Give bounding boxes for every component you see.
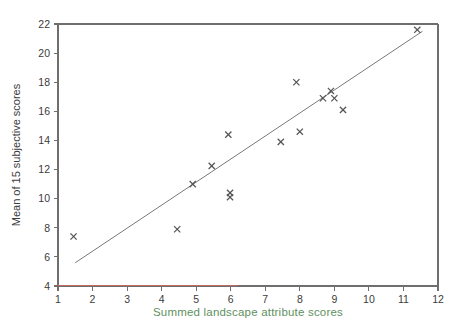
axis-ticks bbox=[54, 24, 438, 291]
y-axis-tick-label: 4 bbox=[44, 280, 50, 292]
axis-titles: Mean of 15 subjective scores Summed land… bbox=[10, 83, 343, 318]
data-point-marker bbox=[174, 226, 180, 232]
x-axis-tick-label: 4 bbox=[159, 293, 165, 305]
y-axis-tick-label: 12 bbox=[38, 163, 50, 175]
trend-line bbox=[75, 31, 422, 262]
data-point-marker bbox=[297, 129, 303, 135]
x-axis-tick-label: 2 bbox=[90, 293, 96, 305]
y-axis-tick-label: 20 bbox=[38, 47, 50, 59]
scatter-plot-figure: 46810121416182022123456789101112 Mean of… bbox=[0, 0, 464, 332]
regression-line bbox=[75, 31, 422, 262]
plot-canvas: 46810121416182022123456789101112 Mean of… bbox=[0, 0, 464, 332]
y-axis-label: Mean of 15 subjective scores bbox=[10, 83, 22, 226]
y-axis-tick-label: 10 bbox=[38, 192, 50, 204]
data-points bbox=[70, 27, 420, 240]
y-axis-tick-label: 6 bbox=[44, 251, 50, 263]
x-axis-tick-label: 6 bbox=[228, 293, 234, 305]
x-axis-tick-label: 11 bbox=[398, 293, 409, 305]
data-point-marker bbox=[293, 79, 299, 85]
x-axis-tick-label: 7 bbox=[262, 293, 268, 305]
data-point-marker bbox=[225, 132, 231, 138]
data-point-marker bbox=[190, 181, 196, 187]
axis-tick-labels: 46810121416182022123456789101112 bbox=[38, 18, 444, 305]
x-axis-tick-label: 12 bbox=[432, 293, 444, 305]
data-point-marker bbox=[340, 107, 346, 113]
data-point-marker bbox=[227, 194, 233, 200]
x-axis-label: Summed landscape attribute scores bbox=[153, 306, 343, 318]
y-axis-tick-label: 18 bbox=[38, 76, 50, 88]
y-axis-tick-label: 8 bbox=[44, 222, 50, 234]
plot-frame bbox=[58, 24, 438, 286]
x-axis-tick-label: 8 bbox=[297, 293, 303, 305]
x-axis-tick-label: 10 bbox=[363, 293, 375, 305]
data-point-marker bbox=[331, 95, 337, 101]
x-axis-tick-label: 3 bbox=[124, 293, 130, 305]
data-point-marker bbox=[320, 95, 326, 101]
data-point-marker bbox=[70, 233, 76, 239]
data-point-marker bbox=[414, 27, 420, 33]
x-axis-tick-label: 5 bbox=[193, 293, 199, 305]
data-point-marker bbox=[278, 139, 284, 145]
y-axis-tick-label: 16 bbox=[38, 105, 50, 117]
y-axis-tick-label: 14 bbox=[38, 134, 50, 146]
x-axis-tick-label: 1 bbox=[55, 293, 61, 305]
y-axis-tick-label: 22 bbox=[38, 18, 50, 30]
data-point-marker bbox=[209, 163, 215, 169]
x-axis-tick-label: 9 bbox=[331, 293, 337, 305]
